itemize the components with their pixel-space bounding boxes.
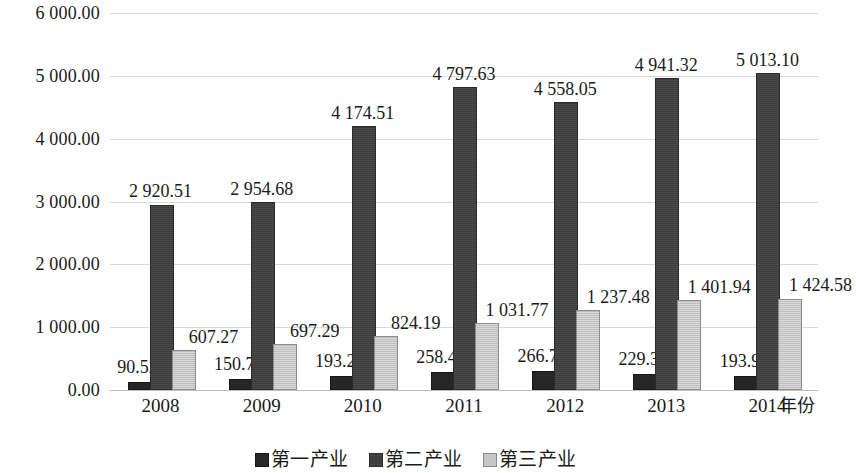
legend-label: 第三产业 (499, 449, 577, 471)
x-axis-tick-label: 2012 (515, 394, 616, 418)
data-label: 4 941.32 (618, 56, 714, 74)
legend-swatch-icon (369, 453, 383, 467)
y-axis-tick-label: 1 000.00 (0, 318, 100, 336)
legend-label: 第二产业 (385, 449, 463, 471)
legend: 第一产业第二产业第三产业 (0, 446, 831, 473)
data-label: 1 031.77 (469, 301, 565, 319)
x-axis: 2008200920102011201220132014 (110, 394, 818, 422)
data-label: 1 401.94 (671, 278, 767, 296)
bar (453, 87, 477, 390)
bar (756, 73, 780, 390)
bar (352, 126, 376, 390)
legend-swatch-icon (255, 453, 269, 467)
bar (273, 344, 297, 390)
bar (251, 202, 275, 390)
bar (554, 102, 578, 390)
bar (374, 336, 398, 390)
bar (576, 310, 600, 390)
bar (734, 376, 758, 390)
data-label: 697.29 (267, 322, 363, 340)
axis-baseline (110, 390, 818, 391)
bar (778, 299, 802, 391)
bar (172, 350, 196, 390)
data-label: 4 797.63 (416, 65, 512, 83)
data-label: 1 237.48 (570, 288, 666, 306)
y-axis-tick-label: 0.00 (0, 381, 100, 399)
x-axis-tick-label: 2011 (413, 394, 514, 418)
data-label: 4 558.05 (517, 80, 613, 98)
gridline (110, 13, 818, 14)
data-label: 824.19 (368, 314, 464, 332)
data-label: 2 920.51 (113, 182, 209, 200)
bar (532, 371, 556, 390)
bar (229, 379, 253, 390)
plot-area: 90.52150.76193.24258.41266.74229.30193.9… (110, 13, 818, 390)
data-label: 4 174.51 (315, 104, 411, 122)
x-axis-title: 年份 (779, 394, 815, 418)
bar (633, 374, 657, 390)
bar (330, 376, 354, 390)
legend-item[interactable]: 第二产业 (369, 449, 463, 471)
legend-item[interactable]: 第一产业 (255, 449, 349, 471)
data-label: 5 013.10 (719, 51, 815, 69)
legend-item[interactable]: 第三产业 (483, 449, 577, 471)
legend-label: 第一产业 (271, 449, 349, 471)
data-label: 2 954.68 (214, 180, 310, 198)
y-axis-tick-label: 3 000.00 (0, 193, 100, 211)
bar (475, 323, 499, 390)
bar (431, 372, 455, 390)
x-axis-tick-label: 2013 (616, 394, 717, 418)
bar (150, 205, 174, 391)
data-label: 1 424.58 (772, 276, 856, 294)
y-axis: 0.001 000.002 000.003 000.004 000.005 00… (0, 13, 100, 390)
bar (128, 382, 152, 390)
x-axis-tick-label: 2009 (211, 394, 312, 418)
legend-swatch-icon (483, 453, 497, 467)
y-axis-tick-label: 2 000.00 (0, 255, 100, 273)
y-axis-tick-label: 5 000.00 (0, 67, 100, 85)
data-label: 607.27 (166, 328, 262, 346)
y-axis-tick-label: 6 000.00 (0, 4, 100, 22)
x-axis-tick-label: 2008 (110, 394, 211, 418)
bar (655, 78, 679, 390)
y-axis-tick-label: 4 000.00 (0, 130, 100, 148)
x-axis-tick-label: 2010 (312, 394, 413, 418)
bar (677, 300, 701, 390)
